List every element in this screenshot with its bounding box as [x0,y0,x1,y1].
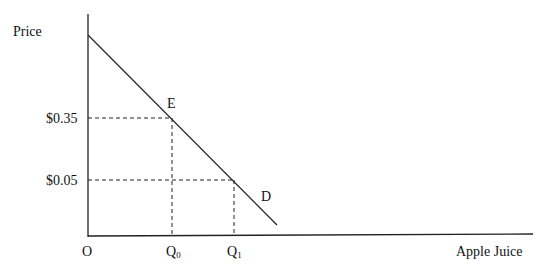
q1-subscript: 1 [237,250,242,260]
demand-curve-label: D [261,190,271,204]
q0-text: Q [166,244,176,259]
q1-label: Q1 [227,245,242,260]
point-e-label: E [167,97,176,111]
demand-diagram [0,0,549,273]
demand-curve [88,35,277,225]
y-axis-label: Price [13,25,42,39]
q0-subscript: 0 [176,250,181,260]
price-tick-low: $0.05 [46,174,78,188]
x-axis [88,234,533,236]
x-axis-label: Apple Juice [456,245,522,259]
q0-label: Q0 [166,245,181,260]
origin-label: O [82,245,92,259]
q1-text: Q [227,244,237,259]
price-tick-high: $0.35 [46,112,78,126]
